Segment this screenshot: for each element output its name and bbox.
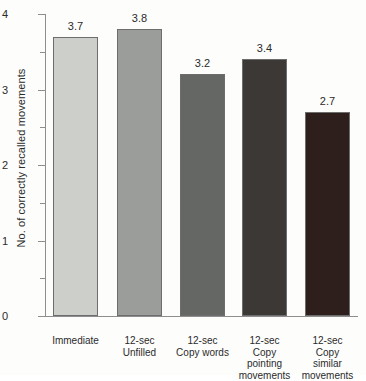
y-tick-2 xyxy=(38,165,45,166)
y-tick-3 xyxy=(38,90,45,91)
y-tick-label-0: 0 xyxy=(0,311,8,322)
y-tick-1 xyxy=(38,241,45,242)
y-axis-line xyxy=(45,14,46,316)
bar-12sec-unfilled xyxy=(117,29,162,316)
bar-value-12sec-unfilled: 3.8 xyxy=(117,13,162,24)
y-tick-3p5 xyxy=(40,52,45,53)
y-tick-1p5 xyxy=(40,203,45,204)
bar-12sec-copy-pointing xyxy=(242,59,287,316)
bar-immediate xyxy=(53,37,98,316)
bar-value-12sec-copy-pointing: 3.4 xyxy=(242,43,287,54)
bar-12sec-copy-words xyxy=(180,74,225,316)
y-tick-label-4: 4 xyxy=(0,9,8,20)
y-tick-0p5 xyxy=(40,278,45,279)
bar-value-immediate: 3.7 xyxy=(53,21,98,32)
bar-value-12sec-copy-words: 3.2 xyxy=(180,58,225,69)
x-axis-line xyxy=(44,316,358,317)
plot-area: 4 3 2 1 0 3.7 3.8 3.2 3.4 2.7 Immediate … xyxy=(45,14,358,316)
y-axis-label: No. of correctly recalled movements xyxy=(14,0,28,316)
x-label-12sec-copy-similar: 12-sec Copy similar movements xyxy=(289,335,366,381)
bar-value-12sec-copy-similar: 2.7 xyxy=(305,96,350,107)
y-tick-4 xyxy=(38,14,45,15)
y-tick-0 xyxy=(38,316,45,317)
y-tick-2p5 xyxy=(40,127,45,128)
y-tick-label-1: 1 xyxy=(0,236,8,247)
bar-12sec-copy-similar xyxy=(305,112,350,316)
y-tick-label-2: 2 xyxy=(0,160,8,171)
y-tick-label-3: 3 xyxy=(0,85,8,96)
